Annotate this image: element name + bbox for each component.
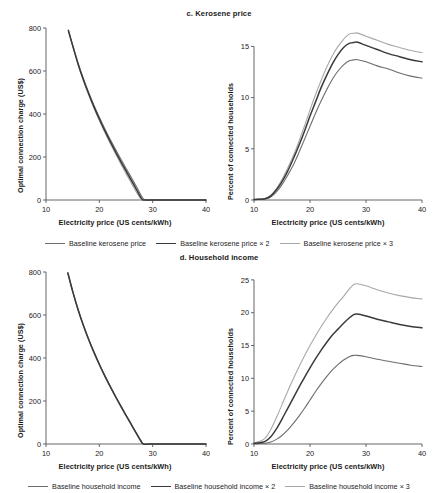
y-tick-label: 20	[241, 308, 249, 317]
figure-root: c. Kerosene price Optimal connection cha…	[0, 0, 438, 493]
axes: 020040060080010203040	[29, 268, 210, 458]
legend-item[interactable]: Baseline household income × 2	[151, 482, 276, 491]
y-tick-label: 10	[241, 374, 249, 383]
axes: 020040060080010203040	[29, 24, 210, 214]
x-tick-label: 40	[418, 205, 426, 214]
series-group	[254, 284, 422, 444]
legend-item[interactable]: Baseline household income	[28, 482, 140, 491]
chart-svg: 020040060080010203040	[20, 266, 210, 462]
series-line	[68, 273, 206, 445]
panel-d-left-plot: 020040060080010203040	[20, 266, 210, 462]
y-tick-label: 25	[241, 276, 249, 285]
panel-c-left-xlabel: Electricity price (US cents/kWh)	[20, 218, 210, 227]
series-group	[68, 30, 206, 200]
y-tick-label: 0	[37, 440, 41, 449]
series-group	[68, 273, 206, 445]
x-tick-label: 10	[42, 205, 50, 214]
series-line	[254, 284, 422, 443]
panel-d-legend: Baseline household income Baseline house…	[0, 482, 438, 491]
legend-item[interactable]: Baseline kerosene price × 3	[280, 239, 393, 248]
series-line	[254, 42, 422, 199]
y-tick-label: 15	[241, 42, 249, 51]
series-line	[68, 274, 206, 445]
panel-d-right-xlabel: Electricity price (US cents/kWh)	[228, 462, 428, 471]
x-tick-label: 40	[418, 449, 426, 458]
panel-d-right-plot: 051015202510203040	[230, 266, 430, 462]
y-tick-label: 0	[37, 196, 41, 205]
legend-item[interactable]: Baseline kerosene price × 2	[156, 239, 269, 248]
series-line	[68, 30, 206, 200]
chart-svg: 051015202510203040	[230, 266, 430, 462]
x-tick-label: 30	[149, 205, 157, 214]
series-line	[254, 60, 422, 200]
x-tick-label: 30	[362, 449, 370, 458]
y-tick-label: 0	[245, 196, 249, 205]
y-tick-label: 15	[241, 341, 249, 350]
y-tick-label: 600	[29, 311, 41, 320]
series-group	[254, 33, 422, 200]
y-tick-label: 800	[29, 24, 41, 33]
panel-d-left-xlabel: Electricity price (US cents/kWh)	[20, 462, 210, 471]
chart-svg: 020040060080010203040	[20, 22, 210, 218]
x-tick-label: 30	[149, 449, 157, 458]
legend-swatch-icon	[280, 243, 300, 244]
y-tick-label: 5	[245, 145, 249, 154]
y-tick-label: 5	[245, 407, 249, 416]
legend-item-label: Baseline kerosene price × 3	[304, 239, 393, 248]
panel-c-title: c. Kerosene price	[0, 9, 438, 18]
y-tick-label: 400	[29, 354, 41, 363]
series-line	[254, 314, 422, 443]
legend-swatch-icon	[156, 243, 176, 244]
y-tick-label: 800	[29, 268, 41, 277]
panel-d-title: d. Household income	[0, 253, 438, 262]
series-line	[68, 31, 206, 201]
panel-c-right-plot: 05101510203040	[230, 22, 430, 218]
panel-household-income: d. Household income Optimal connection c…	[0, 250, 438, 493]
panel-c-legend: Baseline kerosene price Baseline kerosen…	[0, 239, 438, 248]
axes: 051015202510203040	[241, 276, 426, 458]
x-tick-label: 20	[95, 205, 103, 214]
panel-kerosene-price: c. Kerosene price Optimal connection cha…	[0, 0, 438, 250]
y-tick-label: 600	[29, 67, 41, 76]
y-tick-label: 200	[29, 397, 41, 406]
legend-item[interactable]: Baseline kerosene price	[45, 239, 146, 248]
panel-c-left-plot: 020040060080010203040	[20, 22, 210, 218]
y-tick-label: 200	[29, 153, 41, 162]
legend-swatch-icon	[151, 486, 171, 487]
axes: 05101510203040	[241, 42, 426, 214]
series-line	[254, 33, 422, 200]
x-tick-label: 20	[306, 205, 314, 214]
x-tick-label: 30	[362, 205, 370, 214]
x-tick-label: 20	[306, 449, 314, 458]
legend-item-label: Baseline kerosene price	[69, 239, 146, 248]
x-tick-label: 40	[202, 449, 210, 458]
legend-item-label: Baseline household income	[52, 482, 140, 491]
y-tick-label: 400	[29, 110, 41, 119]
chart-svg: 05101510203040	[230, 22, 430, 218]
series-line	[254, 355, 422, 443]
legend-item-label: Baseline household income × 2	[175, 482, 276, 491]
x-tick-label: 40	[202, 205, 210, 214]
legend-item[interactable]: Baseline household income × 3	[285, 482, 410, 491]
legend-item-label: Baseline household income × 3	[309, 482, 410, 491]
x-tick-label: 10	[250, 205, 258, 214]
x-tick-label: 20	[95, 449, 103, 458]
y-tick-label: 0	[245, 440, 249, 449]
series-line	[68, 273, 206, 444]
x-tick-label: 10	[42, 449, 50, 458]
x-tick-label: 10	[250, 449, 258, 458]
legend-swatch-icon	[45, 243, 65, 244]
legend-swatch-icon	[285, 486, 305, 487]
y-tick-label: 10	[241, 93, 249, 102]
panel-c-right-xlabel: Electricity price (US cents/kWh)	[228, 218, 428, 227]
legend-swatch-icon	[28, 486, 48, 487]
legend-item-label: Baseline kerosene price × 2	[180, 239, 269, 248]
series-line	[68, 31, 206, 201]
